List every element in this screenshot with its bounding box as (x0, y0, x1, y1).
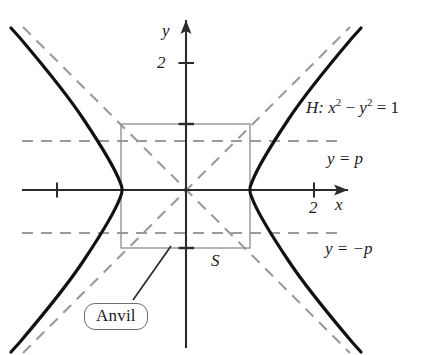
anvil-leader-line (133, 246, 171, 300)
anvil-callout-label: Anvil (96, 306, 136, 325)
figure-canvas (0, 0, 442, 355)
anvil-callout[interactable]: Anvil (84, 303, 148, 330)
hyperbola-label-y: y (359, 98, 367, 117)
y-axis-label: y (162, 22, 170, 39)
x-axis-label: x (335, 196, 343, 213)
axes-group (22, 20, 348, 348)
hyperbola-label-equals-one: = 1 (377, 98, 399, 117)
hyperbola-label-prefix: H: (306, 98, 324, 117)
label-y-equals-p: y = p (327, 150, 363, 167)
hyperbola-label-x: x (328, 98, 336, 117)
label-y-equals-negative-p: y = −p (325, 240, 373, 257)
label-square-s: S (211, 252, 220, 269)
y-tick-label-2: 2 (157, 54, 166, 71)
x-tick-label-2: 2 (309, 199, 318, 216)
hyperbola-figure: y x 2 2 H: x2 − y2 = 1 y = p y = −p S An… (0, 0, 442, 355)
hyperbola-equation-label: H: x2 − y2 = 1 (306, 99, 399, 116)
hyperbola-label-minus: − (346, 98, 356, 117)
horizontal-level-lines (22, 141, 340, 233)
